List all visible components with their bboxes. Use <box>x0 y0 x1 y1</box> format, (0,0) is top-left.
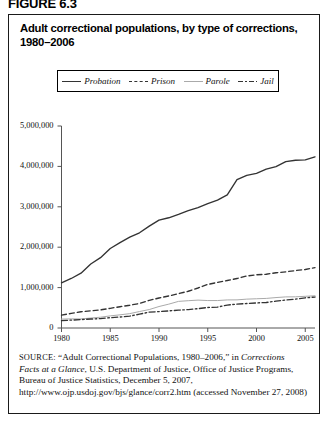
legend-swatch-dash-dot-icon <box>238 78 257 85</box>
legend-label-prison: Prison <box>151 76 175 86</box>
legend-label-jail: Jail <box>260 76 274 86</box>
legend-item-probation: Probation <box>62 76 120 86</box>
chart-legend: Probation Prison Parole Jail <box>57 70 279 92</box>
legend-swatch-thin-solid-icon <box>184 78 203 85</box>
legend-label-probation: Probation <box>84 76 120 86</box>
legend-swatch-dashed-icon <box>129 78 148 85</box>
source-prefix: SOURCE: <box>19 353 56 362</box>
figure-label: FIGURE 6.3 <box>8 0 77 10</box>
legend-label-parole: Parole <box>206 76 230 86</box>
chart-title-line-2: 1980–2006 <box>20 36 300 50</box>
source-text-1: “Adult Correctional Populations, 1980–20… <box>56 352 241 362</box>
chart-title-line-1: Adult correctional populations, by type … <box>20 22 300 36</box>
legend-swatch-solid-icon <box>62 78 81 85</box>
legend-item-prison: Prison <box>129 76 175 86</box>
page-title: Adult correctional populations, by type … <box>20 22 300 49</box>
source-note: SOURCE: “Adult Correctional Populations,… <box>19 352 307 398</box>
legend-item-parole: Parole <box>184 76 230 86</box>
legend-item-jail: Jail <box>238 76 274 86</box>
